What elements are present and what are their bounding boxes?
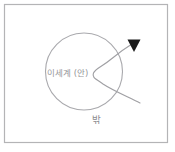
region-label-inside: 이세계 (안) [47,68,88,78]
region-label-outside: 밖 [92,114,101,125]
figure-canvas: 이세계 (안) 밖 [0,0,175,152]
trajectory-curve [93,43,140,103]
